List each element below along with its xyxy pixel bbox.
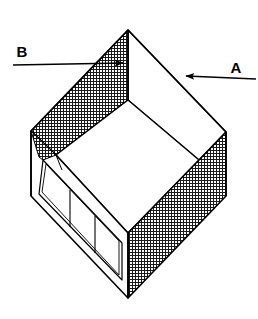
box-shell xyxy=(31,30,226,298)
callout-a: A xyxy=(186,59,256,79)
isometric-box-drawing: A B xyxy=(0,0,258,319)
callout-b-label: B xyxy=(17,43,28,60)
technical-drawing-figure: A B xyxy=(0,0,258,319)
callout-a-leader-line xyxy=(186,76,256,79)
callout-a-label: A xyxy=(231,59,242,76)
